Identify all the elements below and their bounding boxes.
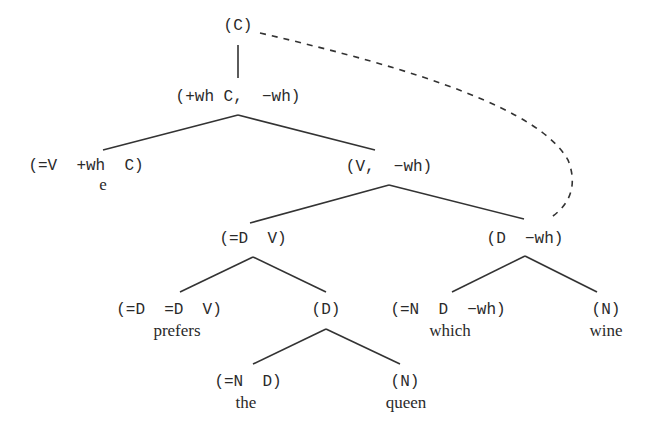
- node-c-root: (C): [224, 17, 253, 35]
- movement-link-dashed: [260, 33, 572, 218]
- word-prefers: prefers: [153, 322, 200, 340]
- word-the: the: [236, 394, 257, 412]
- node-nd: (=N D): [214, 373, 281, 391]
- edge-cbar-to-vwh: [238, 115, 375, 150]
- edge-vwh-to-dwh: [389, 185, 524, 219]
- word-which: which: [429, 322, 471, 340]
- tree-edges: [0, 0, 653, 440]
- node-c-bar: (+wh C, −wh): [176, 88, 301, 106]
- node-ndwh: (=N D −wh): [390, 301, 505, 319]
- node-ddv: (=D =D V): [116, 301, 222, 319]
- word-wine: wine: [589, 322, 622, 340]
- node-d-wh: (D −wh): [487, 230, 564, 248]
- edge-dwh-to-nwine: [525, 256, 597, 292]
- word-queen: queen: [386, 394, 427, 412]
- node-n-wine: (N): [592, 301, 621, 319]
- edge-d-to-nd: [253, 329, 326, 364]
- edge-d-to-nqueen: [326, 329, 400, 364]
- edge-vwh-to-dv: [250, 185, 389, 223]
- syntax-tree-diagram: (C) (+wh C, −wh) (=V +wh C) e (V, −wh) (…: [0, 0, 653, 440]
- edge-cbar-to-chead: [103, 115, 238, 150]
- node-dv: (=D V): [219, 230, 286, 248]
- node-c-head: (=V +wh C): [28, 157, 143, 175]
- node-n-queen: (N): [391, 373, 420, 391]
- edge-dwh-to-ndwh: [452, 256, 525, 292]
- edge-dv-to-ddv: [180, 257, 253, 292]
- word-e: e: [99, 176, 107, 194]
- node-d: (D): [312, 301, 341, 319]
- edge-dv-to-d: [253, 257, 326, 292]
- node-v-wh: (V, −wh): [346, 158, 432, 176]
